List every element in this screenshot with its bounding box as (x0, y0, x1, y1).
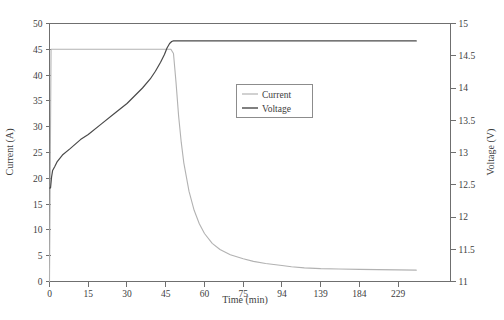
series-layer (50, 41, 417, 282)
chart-legend: Current Voltage (237, 85, 313, 118)
right-tick-label: 12 (459, 212, 469, 222)
right-axis-ticks: 1111.51212.51313.51414.515 (450, 19, 476, 287)
right-tick-label: 13 (459, 148, 469, 158)
right-tick-label: 11 (459, 277, 468, 287)
left-tick-label: 25 (33, 148, 43, 158)
bottom-tick-label: 139 (314, 289, 329, 299)
y-axis-right-title: Voltage (V) (485, 129, 497, 176)
right-tick-label: 15 (459, 19, 469, 29)
left-tick-label: 15 (33, 200, 43, 210)
dual-axis-line-chart: 05101520253035404550 1111.51212.51313.51… (0, 0, 504, 320)
plot-axes (50, 24, 451, 282)
legend-label-current: Current (262, 90, 291, 100)
bottom-tick-label: 184 (352, 289, 367, 299)
bottom-tick-label: 94 (277, 289, 287, 299)
bottom-tick-label: 0 (47, 289, 52, 299)
x-axis-title: Time (min) (222, 294, 267, 306)
right-tick-label: 14.5 (459, 51, 476, 61)
left-tick-label: 45 (33, 45, 43, 55)
left-tick-label: 0 (38, 277, 43, 287)
series-line-voltage (50, 41, 417, 188)
left-tick-label: 10 (33, 225, 43, 235)
bottom-tick-label: 45 (161, 289, 171, 299)
right-tick-label: 12.5 (459, 180, 476, 190)
left-tick-label: 30 (33, 122, 43, 132)
left-tick-label: 40 (33, 71, 43, 81)
left-tick-label: 50 (33, 19, 43, 29)
bottom-tick-label: 15 (83, 289, 93, 299)
right-tick-label: 11.5 (459, 245, 476, 255)
bottom-tick-label: 30 (122, 289, 132, 299)
bottom-tick-label: 229 (391, 289, 406, 299)
left-tick-label: 35 (33, 96, 43, 106)
legend-label-voltage: Voltage (262, 104, 291, 114)
left-tick-label: 5 (38, 251, 43, 261)
bottom-tick-label: 60 (200, 289, 210, 299)
left-tick-label: 20 (33, 174, 43, 184)
series-line-current (50, 49, 417, 281)
y-axis-left-title: Current (A) (4, 129, 16, 176)
chart-figure: 05101520253035404550 1111.51212.51313.51… (0, 0, 504, 320)
left-axis-ticks: 05101520253035404550 (33, 19, 51, 287)
right-tick-label: 14 (459, 83, 469, 93)
right-tick-label: 13.5 (459, 116, 476, 126)
